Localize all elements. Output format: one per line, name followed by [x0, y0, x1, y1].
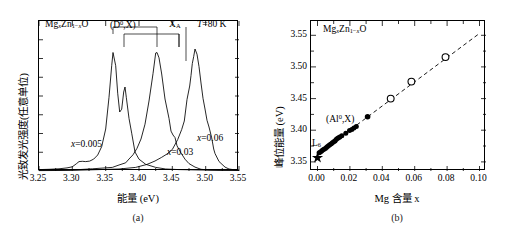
panel-a-canvas [39, 21, 239, 171]
panel-a-xtick-1: 3.30 [63, 173, 80, 183]
panel-b-ytick-3: 3.50 [282, 61, 307, 71]
panel-b-ytick-1: 3.40 [282, 124, 307, 134]
panel-a-xtick-3: 3.40 [130, 173, 147, 183]
panel-a-xtick-4: 3.45 [163, 173, 180, 183]
panel-b-xtick-2: 0.04 [373, 173, 390, 183]
panel-b-xtick-0: 0.00 [308, 173, 325, 183]
panel-b-caption: (b) [391, 212, 403, 223]
panel-a-caption: (a) [132, 212, 143, 223]
curve-x-0.03 [39, 53, 239, 171]
panel-a-curves [39, 49, 239, 171]
figure-container: 光致发光强度(任意单位) [0, 0, 510, 244]
panel-b-canvas [311, 21, 486, 171]
curve-label-x-0.005: x=0.005 [71, 139, 102, 149]
panel-a-xtick-6: 3.55 [230, 173, 247, 183]
curve-x-0.06 [39, 49, 239, 171]
panel-a-xtick-2: 3.35 [96, 173, 113, 183]
panel-a-temperature-label: T=80 K [197, 19, 226, 29]
panel-b-xtick-3: 0.06 [405, 173, 422, 183]
panel-b-ytick-2: 3.45 [282, 93, 307, 103]
panel-b-material-label: MgxZn1−xO [323, 24, 366, 34]
panel-a-xlabel: 能量 (eV) [117, 190, 159, 205]
panel-a-ylabel: 光致发光强度(任意单位) [15, 73, 30, 180]
panel-a-ticks [39, 21, 239, 171]
panel-a-material-label: MgxZn1−xO [45, 19, 88, 29]
curve-label-x-0.06: x=0.06 [197, 133, 223, 143]
panel-b-xlabel: Mg 含量 x [374, 190, 419, 205]
panel-a: 光致发光强度(任意单位) [0, 0, 255, 244]
panel-a-bracket-label-d0x: (D0,X) [110, 19, 136, 30]
panel-a-plot-area: MgxZn1−xO (D0,X) XA T=80 K x=0.005 x=0.0… [38, 20, 238, 170]
curve-x-0.005 [39, 53, 239, 171]
panel-b-plot-area: MgxZn1−xO (Al0,X) L6 [310, 20, 485, 170]
panel-b-xtick-1: 0.02 [341, 173, 358, 183]
panel-b-ticks [311, 21, 486, 171]
panel-a-xtick-5: 3.50 [196, 173, 213, 183]
panel-a-bracket-label-xa: XA [169, 19, 181, 29]
panel-a-peak-brackets [113, 27, 186, 61]
panel-b-annotation-l6: L6 [312, 138, 321, 148]
panel-b-xtick-5: 0.10 [470, 173, 487, 183]
panel-a-xtick-0: 3.25 [30, 173, 47, 183]
panel-b-annotation-al0x: (Al0,X) [326, 113, 354, 124]
panel-b-ytick-4: 3.55 [282, 29, 307, 39]
panel-b-xtick-4: 0.08 [438, 173, 455, 183]
panel-b-ytick-0: 3.35 [282, 156, 307, 166]
curve-label-x-0.03: x=0.03 [167, 147, 193, 157]
panel-b: 峰位能量 (eV) [255, 0, 510, 244]
